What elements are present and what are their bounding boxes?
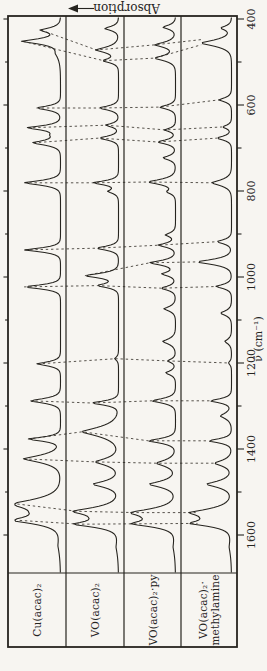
x-axis-label: ν̃ (cm⁻¹) [252,316,265,362]
x-tick-label: 400 [245,9,258,30]
correlation-line [37,100,220,108]
panel-label-text: VO(acac)₂·py [147,574,159,645]
correlation-line [17,504,195,513]
correlation-line [24,286,216,289]
scanned-figure-page: 4006008001000120014001600 ν̃ (cm⁻¹) Abso… [0,0,267,671]
panel-label-text: VO(acac)₂· [197,581,209,639]
panel-label-text: VO(acac)₂ [89,583,101,638]
correlation-line [28,125,223,130]
correlation-line [20,520,198,524]
spectra-chart: 4006008001000120014001600 ν̃ (cm⁻¹) Abso… [0,0,267,671]
panel-label-cu-acac2: Cu(acac)₂ [8,573,66,647]
correlation-line [24,182,212,183]
panel-label-vo-acac2: VO(acac)₂ [66,573,124,647]
compound-labels-column: Cu(acac)₂ VO(acac)₂ VO(acac)₂·py VO(acac… [8,573,237,647]
panel-label-vo-acac2-methylamine: VO(acac)₂· methylamine [181,573,237,647]
panel-label-text: Cu(acac)₂ [31,583,43,636]
panel-label-vo-acac2-py: VO(acac)₂·py [124,573,181,647]
correlation-line [85,262,197,276]
correlation-line [24,459,215,463]
absorption-arrow-icon [68,5,94,13]
x-tick-label: 1400 [245,435,258,463]
figure-frame [8,16,237,647]
spectrum-curves-layer [15,18,232,573]
axis-tick-labels-layer: 4006008001000120014001600 [245,9,258,550]
spectrum-curve-4 [189,18,232,573]
x-tick-label: 600 [245,95,258,116]
correlation-line [34,138,218,143]
x-tick-label: 1000 [245,263,258,291]
correlation-line [41,30,201,50]
spectrum-curve-1 [15,18,61,573]
spectrum-curve-3 [131,18,176,573]
y-axis-label: Absorption [93,1,161,15]
x-tick-label: 1600 [245,521,258,549]
panel-label-text: methylamine [209,574,221,645]
correlation-lines-layer [17,30,229,524]
x-tick-label: 800 [245,181,258,202]
rotated-figure-container: 4006008001000120014001600 ν̃ (cm⁻¹) Abso… [0,0,267,671]
spectrum-curve-2 [73,18,119,573]
correlation-line [30,401,210,403]
